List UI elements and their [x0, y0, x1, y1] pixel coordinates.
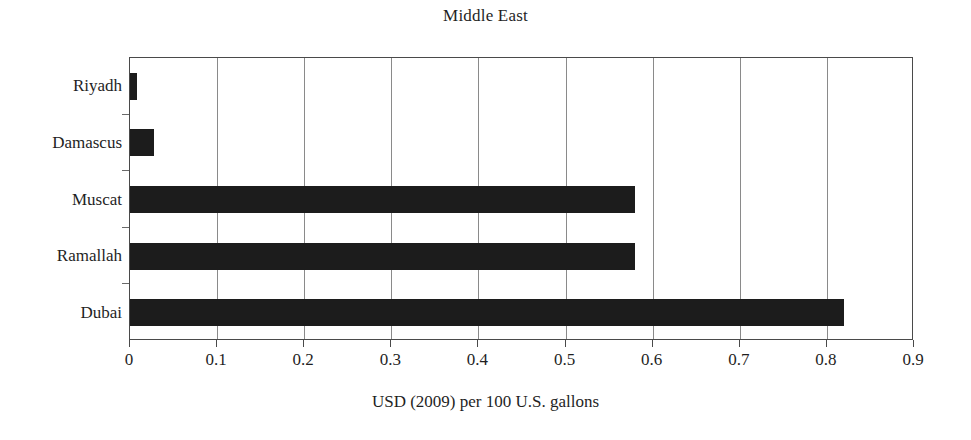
chart-title: Middle East	[0, 6, 971, 26]
x-axis-ticks	[129, 340, 913, 348]
x-axis-tick	[826, 340, 827, 347]
x-axis-tick	[739, 340, 740, 347]
x-axis-tick-label: 0.9	[902, 350, 923, 370]
x-axis-tick	[565, 340, 566, 347]
x-axis-tick-label: 0.2	[293, 350, 314, 370]
bar-muscat	[130, 186, 635, 213]
x-axis-tick-label: 0.7	[728, 350, 749, 370]
x-axis-tick-labels: 00.10.20.30.40.50.60.70.80.9	[0, 350, 971, 376]
x-axis-tick	[216, 340, 217, 347]
x-axis-tick-label: 0.6	[641, 350, 662, 370]
x-axis-tick-label: 0.8	[815, 350, 836, 370]
bars-layer	[130, 58, 912, 339]
x-axis-tick	[913, 340, 914, 347]
x-axis-tick	[129, 340, 130, 347]
x-axis-tick-label: 0.4	[467, 350, 488, 370]
x-axis-tick-label: 0	[125, 350, 134, 370]
y-axis-tick	[122, 170, 129, 171]
plot-area	[129, 57, 913, 340]
x-axis-tick	[390, 340, 391, 347]
x-axis-tick-label: 0.5	[554, 350, 575, 370]
y-axis-label-dubai: Dubai	[0, 304, 122, 321]
bar-damascus	[130, 129, 154, 156]
y-axis-label-ramallah: Ramallah	[0, 247, 122, 264]
y-axis-label-muscat: Muscat	[0, 191, 122, 208]
x-axis-tick	[652, 340, 653, 347]
bar-ramallah	[130, 243, 635, 270]
x-axis-title: USD (2009) per 100 U.S. gallons	[0, 392, 971, 412]
y-axis-label-riyadh: Riyadh	[0, 77, 122, 94]
x-axis-tick	[303, 340, 304, 347]
x-axis-tick	[477, 340, 478, 347]
bar-chart-figure: Middle East RiyadhDamascusMuscatRamallah…	[0, 0, 971, 440]
bar-riyadh	[130, 73, 137, 100]
y-axis-tick	[122, 283, 129, 284]
bar-dubai	[130, 299, 844, 326]
x-axis-tick-label: 0.1	[205, 350, 226, 370]
y-axis-tick	[122, 227, 129, 228]
y-axis-label-damascus: Damascus	[0, 134, 122, 151]
x-axis-tick-label: 0.3	[380, 350, 401, 370]
y-axis-category-labels: RiyadhDamascusMuscatRamallahDubai	[0, 57, 122, 340]
y-axis-tick	[122, 114, 129, 115]
